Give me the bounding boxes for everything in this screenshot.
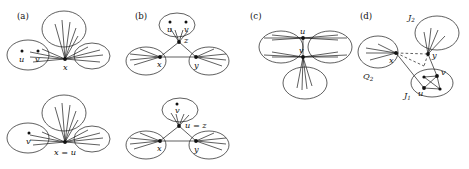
label-u-equals-z: u = z <box>185 120 207 130</box>
node-v <box>435 74 439 78</box>
label-x: x <box>389 55 394 65</box>
node-u <box>301 36 305 40</box>
node-u <box>21 50 24 53</box>
label-x: x <box>157 59 162 69</box>
blob-left <box>7 40 49 70</box>
blob-top <box>162 98 198 122</box>
label-v: v <box>299 45 304 55</box>
label-q2: Q2 <box>363 71 374 82</box>
label-y: y <box>431 50 437 60</box>
panel-b-top: z x y u v <box>126 13 229 75</box>
label-j2: J2 <box>406 12 415 23</box>
node-u-equals-z <box>177 124 181 128</box>
label-x: x <box>63 62 68 72</box>
node-inner-1 <box>422 75 425 78</box>
label-u: u <box>418 88 423 98</box>
panel-d-label: (d) <box>360 11 372 21</box>
panel-c-main: u v <box>259 26 352 99</box>
node-v <box>28 132 31 135</box>
node-v <box>301 55 305 59</box>
panel-d: (d) <box>358 11 459 101</box>
label-x: x <box>157 143 162 153</box>
label-u: u <box>300 26 305 36</box>
label-j1: J1 <box>402 90 411 101</box>
panel-b-label: (b) <box>135 11 147 21</box>
node-x <box>63 57 67 61</box>
node-y <box>194 55 198 59</box>
node-x <box>394 51 398 55</box>
node-v <box>37 50 40 53</box>
label-v: v <box>35 54 40 64</box>
node-x-equals-u <box>63 140 67 144</box>
label-v: v <box>175 105 180 115</box>
figure-canvas: (a) x <box>0 0 469 169</box>
label-v: v <box>26 136 31 146</box>
label-u: u <box>19 54 24 64</box>
label-u: u <box>167 24 172 34</box>
node-y <box>426 52 430 56</box>
node-z <box>177 40 181 44</box>
blob-top <box>159 13 195 37</box>
label-y: y <box>193 144 199 154</box>
label-z: z <box>183 35 189 45</box>
node-inner-2 <box>438 87 441 90</box>
edge-x-u <box>396 53 424 88</box>
label-y: y <box>193 60 199 70</box>
panel-b-bottom: u = z x y v <box>126 98 229 159</box>
edge-x-j1-dashed <box>396 53 424 66</box>
label-v: v <box>184 24 189 34</box>
panel-b: (b) <box>126 11 229 159</box>
edge-x-y-dashed <box>396 53 428 54</box>
panel-a-bottom: x = u v <box>7 95 110 157</box>
label-x-equals-u: x = u <box>54 147 76 157</box>
panel-c-label: (c) <box>250 11 262 21</box>
panel-d-main: x y u v J2 J1 Q2 <box>358 12 459 101</box>
label-v: v <box>441 67 446 77</box>
node-y <box>194 139 198 143</box>
panel-a: (a) x <box>7 11 110 157</box>
panel-c: (c) <box>250 11 352 99</box>
panel-a-label: (a) <box>17 11 29 21</box>
